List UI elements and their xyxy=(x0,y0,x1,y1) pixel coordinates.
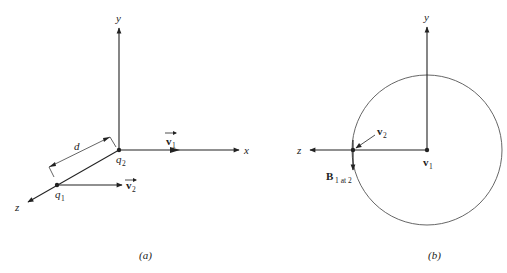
q2-label: q 2 xyxy=(116,153,126,168)
q1-label: q 1 xyxy=(55,188,65,203)
v2-leader-b xyxy=(356,135,375,148)
svg-text:2: 2 xyxy=(132,185,136,194)
distance-label: d xyxy=(74,140,80,152)
z-axis-label-b: z xyxy=(296,144,302,156)
caption-a: (a) xyxy=(139,249,152,262)
v1-point-b xyxy=(425,148,429,152)
z-axis-label-a: z xyxy=(14,201,20,213)
panel-b: y z v 1 B 1 at 2 v 2 (b) xyxy=(296,11,502,262)
caption-b: (b) xyxy=(428,249,441,262)
x-axis-label-a: x xyxy=(243,144,249,156)
svg-text:2: 2 xyxy=(122,159,126,168)
svg-text:2: 2 xyxy=(383,131,387,140)
svg-text:B: B xyxy=(326,170,334,182)
y-axis-label-b: y xyxy=(423,11,429,23)
v1-label-b: v 1 xyxy=(423,156,433,171)
svg-text:1 at 2: 1 at 2 xyxy=(335,176,352,185)
b-field-label: B 1 at 2 xyxy=(326,170,352,185)
svg-text:1: 1 xyxy=(61,194,65,203)
q2-point xyxy=(117,148,121,152)
svg-text:1: 1 xyxy=(429,162,433,171)
y-axis-label-a: y xyxy=(115,12,121,24)
z-axis-a xyxy=(28,150,119,202)
v2-label-a: v 2 xyxy=(125,178,137,194)
figure: y x v 1 z q 2 q 1 xyxy=(0,0,507,273)
v1-label-a: v 1 xyxy=(165,131,177,150)
v2-label-b: v 2 xyxy=(377,125,387,140)
svg-text:1: 1 xyxy=(172,141,176,150)
panel-a: y x v 1 z q 2 q 1 xyxy=(14,12,249,262)
